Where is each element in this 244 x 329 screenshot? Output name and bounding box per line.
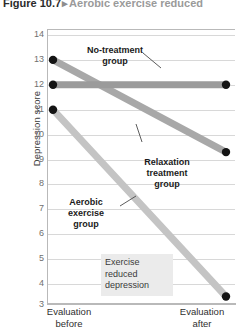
y-tick-label: 11	[22, 104, 44, 113]
y-tick-label: 6	[22, 229, 44, 238]
chart-figure: Depression score 14 13 12 11 10 9 8 7 6 …	[0, 11, 244, 325]
y-tick-label: 5	[22, 254, 44, 263]
y-tick-label: 9	[22, 154, 44, 163]
figure-caption: Figure 10.7▸Aerobic exercise reduced	[3, 0, 203, 10]
figure-caption-label: Figure 10.7	[3, 0, 61, 9]
leader-line-aerobic	[120, 196, 136, 206]
y-axis-tick-labels: 14 13 12 11 10 9 8 7 6 5 4 3	[22, 11, 44, 325]
leader-line-relaxation	[136, 124, 142, 142]
x-tick-label-evaluation-after: Evaluation after	[163, 306, 241, 329]
annotation-callout-exercise-reduced-depression: Exercise reduced depression	[101, 254, 173, 296]
annotation-relaxation-treatment-group: Relaxation treatment group	[132, 157, 202, 190]
caption-arrow-icon: ▸	[61, 0, 69, 9]
annotation-aerobic-exercise-group: Aerobic exercise group	[56, 197, 116, 230]
y-tick-label: 13	[22, 54, 44, 63]
y-tick-label: 8	[22, 179, 44, 188]
y-tick-label: 14	[22, 30, 44, 39]
annotation-no-treatment-group: No-treatment group	[74, 45, 156, 67]
y-tick-label: 10	[22, 129, 44, 138]
figure-caption-title: Aerobic exercise reduced	[69, 0, 203, 9]
y-tick-label: 7	[22, 204, 44, 213]
x-axis-line	[47, 303, 236, 305]
figure-caption-strip: Figure 10.7▸Aerobic exercise reduced	[0, 0, 244, 11]
y-tick-label: 4	[22, 279, 44, 288]
x-tick-label-evaluation-before: Evaluation before	[30, 306, 108, 329]
y-tick-label: 12	[22, 79, 44, 88]
